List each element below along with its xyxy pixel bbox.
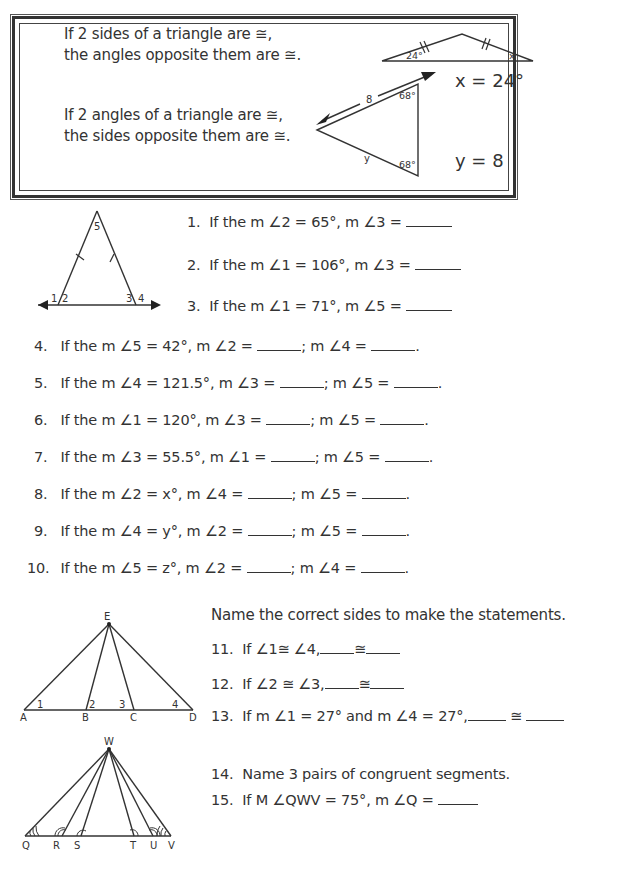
point-v-label: V bbox=[168, 840, 175, 851]
point-u-label: U bbox=[150, 840, 157, 851]
point-w-label: W bbox=[104, 736, 114, 747]
question-15: 15. If M ∠QWV = 75°, m ∠Q = bbox=[211, 792, 478, 808]
point-t-label: T bbox=[129, 840, 137, 851]
point-s-label: S bbox=[74, 840, 80, 851]
figure-fan-triangle-w: W Q R S T U V bbox=[0, 0, 617, 872]
point-r-label: R bbox=[53, 840, 60, 851]
question-14: 14. Name 3 pairs of congruent segments. bbox=[211, 766, 510, 782]
point-q-label: Q bbox=[22, 840, 30, 851]
answer-blank[interactable] bbox=[438, 792, 478, 805]
